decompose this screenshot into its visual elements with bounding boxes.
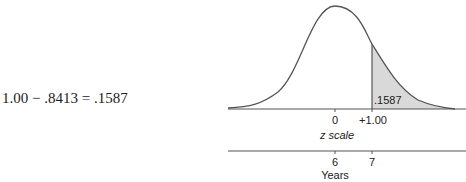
z-tick-label-0: 0 [332, 114, 338, 126]
years-tick-label-1: 7 [369, 156, 375, 168]
z-tick-label-1: +1.00 [359, 114, 387, 126]
normal-distribution-diagram: .1587 0 +1.00 z scale 6 7 Years [0, 0, 466, 182]
z-axis-label: z scale [319, 129, 354, 141]
years-tick-label-0: 6 [332, 156, 338, 168]
years-axis-label: Years [321, 169, 349, 181]
shaded-area-label: .1587 [374, 94, 402, 106]
normal-curve [228, 6, 455, 109]
